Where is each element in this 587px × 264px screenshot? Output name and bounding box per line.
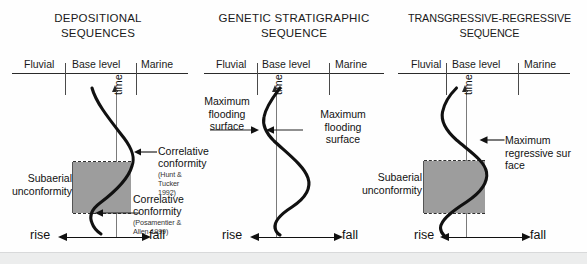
divider-tick-base-marine xyxy=(518,63,519,95)
axis-label-base-level: Base level xyxy=(262,58,310,70)
subaerial-unconformity-box xyxy=(424,161,485,213)
annotation-maximum-flooding-surface-right: Maximum flooding surface xyxy=(304,108,382,146)
axis-label-base-level: Base level xyxy=(452,58,500,70)
box-left-edge xyxy=(423,161,424,213)
axis-label-fluvial: Fluvial xyxy=(216,58,246,70)
time-axis-line xyxy=(276,88,277,238)
box-left-edge xyxy=(72,162,73,213)
rise-arrowhead-icon xyxy=(250,233,259,241)
time-axis-label: time xyxy=(462,74,474,95)
annotation-text: Correlative conformity xyxy=(133,193,184,218)
fall-label: fall xyxy=(530,228,546,242)
fall-arrowhead-icon xyxy=(334,233,343,241)
divider-tick-fluvial-base xyxy=(446,63,447,95)
annotation-maximum-flooding-surface-left: Maximum flooding surface xyxy=(198,95,256,133)
fall-label: fall xyxy=(149,228,165,242)
box-dashed-bottom-edge xyxy=(424,213,485,214)
axis-label-row: Fluvial Base level Marine xyxy=(0,58,196,73)
subaerial-unconformity-box xyxy=(73,162,131,213)
axis-label-row: Fluvial Base level Marine xyxy=(196,58,392,73)
axis-label-fluvial: Fluvial xyxy=(411,58,441,70)
box-dashed-top-edge xyxy=(73,161,131,162)
axis-label-marine: Marine xyxy=(141,58,173,70)
annotation-subaerial-unconformity: Subaerial unconformity xyxy=(2,172,72,197)
divider-tick-base-marine xyxy=(329,63,330,95)
panel-genetic-stratigraphic-sequence: GENETIC STRATIGRAPHIC SEQUENCE Fluvial B… xyxy=(196,0,392,252)
box-dashed-bottom-edge xyxy=(73,213,131,214)
header-horizontal-rule xyxy=(398,73,570,74)
rise-fall-axis-line xyxy=(258,237,336,238)
annotation-maximum-regressive-surface: Maximum regressive sur face xyxy=(505,134,587,172)
axis-label-base-level: Base level xyxy=(72,58,120,70)
divider-tick-base-marine xyxy=(136,63,137,95)
panel-title: DEPOSITIONAL SEQUENCES xyxy=(0,11,196,40)
divider-tick-fluvial-base xyxy=(65,63,66,95)
panel-depositional-sequences: DEPOSITIONAL SEQUENCES Fluvial Base leve… xyxy=(0,0,196,252)
rise-arrowhead-icon xyxy=(440,233,449,241)
panel-transgressive-regressive-sequence: TRANSGRESSIVE-REGRESSIVE SEQUENCE Fluvia… xyxy=(392,0,587,252)
axis-label-fluvial: Fluvial xyxy=(24,58,54,70)
rise-label: rise xyxy=(222,228,242,242)
bottom-strip xyxy=(0,252,587,264)
fall-arrowhead-icon xyxy=(142,233,151,241)
annotation-subaerial-unconformity: Subaerial unconformity xyxy=(350,171,422,196)
panel-title: TRANSGRESSIVE-REGRESSIVE SEQUENCE xyxy=(392,11,587,40)
rise-label: rise xyxy=(414,228,434,242)
fall-arrowhead-icon xyxy=(522,233,531,241)
time-axis-label: time xyxy=(272,74,284,95)
header-horizontal-rule xyxy=(204,73,384,74)
rise-arrowhead-icon xyxy=(58,233,67,241)
rise-fall-axis-line xyxy=(66,237,144,238)
axis-label-row: Fluvial Base level Marine xyxy=(392,58,587,73)
axis-label-marine: Marine xyxy=(524,58,556,70)
rise-label: rise xyxy=(30,228,50,242)
rise-fall-axis-line xyxy=(448,237,524,238)
time-axis-label: time xyxy=(112,74,124,95)
header-horizontal-rule xyxy=(12,73,188,74)
box-dashed-top-edge xyxy=(424,160,485,161)
divider-tick-fluvial-base xyxy=(257,63,258,95)
fall-label: fall xyxy=(342,228,358,242)
panel-title: GENETIC STRATIGRAPHIC SEQUENCE xyxy=(196,11,392,40)
axis-label-marine: Marine xyxy=(335,58,367,70)
